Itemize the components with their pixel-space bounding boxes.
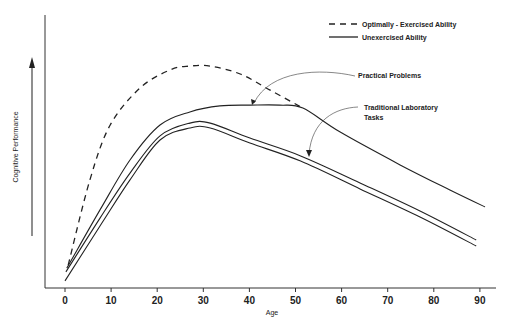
x-tick-label: 50 xyxy=(290,295,302,306)
practical-arrow-curve xyxy=(254,72,355,103)
x-tick-label: 0 xyxy=(62,295,68,306)
y-arrow-head-icon xyxy=(29,57,35,68)
x-tick-label: 60 xyxy=(336,295,348,306)
x-tick-label: 90 xyxy=(474,295,486,306)
x-tick-label: 30 xyxy=(198,295,210,306)
y-axis-label-group: Cognitive Performance xyxy=(12,111,20,182)
series-layer xyxy=(65,65,485,281)
x-axis-label: Age xyxy=(266,309,279,317)
x-tick-label: 10 xyxy=(106,295,118,306)
legend: Optimally - Exercised Ability Unexercise… xyxy=(329,21,456,42)
series-practical-problems xyxy=(67,105,485,268)
legend-label-exercised: Optimally - Exercised Ability xyxy=(362,21,456,29)
annotation-lab-tasks-line2: Tasks xyxy=(364,114,383,121)
annotation-lab-tasks-line1: Traditional Laboratory xyxy=(364,104,438,112)
lab-arrow-curve xyxy=(309,107,358,154)
chart: 0102030405060708090 Age Cognitive Perfor… xyxy=(0,0,509,329)
x-tick-label: 80 xyxy=(428,295,440,306)
x-tick-label: 40 xyxy=(244,295,256,306)
legend-label-unexercised: Unexercised Ability xyxy=(362,34,427,42)
x-tick-label: 20 xyxy=(152,295,164,306)
x-ticks: 0102030405060708090 xyxy=(62,288,486,306)
y-axis-label: Cognitive Performance xyxy=(12,111,20,182)
axes: 0102030405060708090 Age Cognitive Perfor… xyxy=(12,15,496,317)
series-lab-tasks-upper xyxy=(66,121,476,272)
annotation-practical-problems: Practical Problems xyxy=(358,72,421,79)
series-lab-tasks-lower xyxy=(65,126,476,281)
series-optimally-exercised xyxy=(68,65,303,265)
x-tick-label: 70 xyxy=(382,295,394,306)
lab-arrow-head-icon xyxy=(306,150,312,157)
annotations: Practical Problems Traditional Laborator… xyxy=(251,72,438,157)
